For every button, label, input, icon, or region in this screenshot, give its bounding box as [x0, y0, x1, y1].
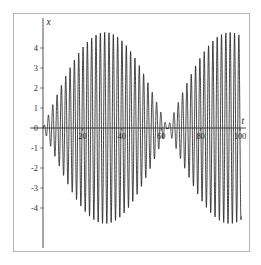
x-tick-label: 80 — [196, 132, 204, 141]
y-tick-label: 3 — [34, 64, 38, 73]
y-tick-label: 4 — [34, 44, 39, 53]
y-axis-tick-labels: -4-3-2-101234 — [31, 44, 39, 213]
plot-figure: 20406080100 -4-3-2-101234 x t — [0, 0, 261, 265]
y-tick-label: -2 — [31, 164, 38, 173]
y-tick-label: -1 — [31, 144, 38, 153]
plot-canvas: 20406080100 -4-3-2-101234 x t — [0, 0, 261, 265]
y-tick-label: -3 — [31, 184, 38, 193]
y-axis-label: x — [46, 17, 52, 27]
y-tick-label: 2 — [34, 84, 38, 93]
x-axis-label: t — [242, 116, 245, 126]
y-tick-label: 1 — [34, 104, 38, 113]
y-tick-label: -4 — [31, 204, 39, 213]
y-tick-label: 0 — [34, 124, 38, 133]
